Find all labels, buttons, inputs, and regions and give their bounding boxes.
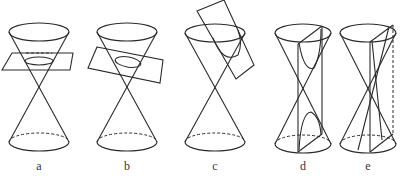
panel-a-plane: [2, 53, 73, 70]
panel-a-cone: [2, 23, 73, 151]
panel-b-label: b: [117, 159, 137, 174]
cones-drawing: [0, 0, 411, 179]
panel-b-plane: [88, 47, 163, 83]
panel-b-ellipse-section: [114, 55, 141, 69]
panel-a-label: a: [29, 159, 49, 174]
panel-a-circle-section: [25, 57, 53, 65]
panel-b-cone: [88, 23, 163, 151]
panel-e-label: e: [358, 159, 378, 174]
panel-c-label: c: [205, 159, 225, 174]
panel-c-parabola-section: [213, 30, 241, 57]
conic-sections-figure: a b c d e: [0, 0, 411, 179]
panel-d-label: d: [293, 159, 313, 174]
panel-c-plane: [197, 0, 254, 79]
panel-d-cone: [275, 24, 331, 153]
panel-e-cone: [340, 24, 396, 153]
panel-e-line-2: [358, 27, 389, 150]
panel-c-cone: [185, 0, 254, 151]
